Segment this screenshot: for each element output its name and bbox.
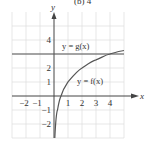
svg-text:−1: −1: [32, 98, 42, 108]
svg-text:3: 3: [94, 98, 99, 108]
svg-text:2: 2: [80, 98, 85, 108]
chart: y (b) 4 x −2−11234 421−1−2 y = g(x) y = …: [0, 0, 149, 148]
svg-text:4: 4: [108, 98, 113, 108]
header-fragment: (b) 4: [74, 0, 92, 6]
axes: [12, 16, 135, 138]
svg-text:1: 1: [66, 98, 71, 108]
svg-text:−2: −2: [41, 119, 51, 129]
series-f-label: y = f(x): [77, 76, 103, 86]
series-f: [55, 51, 124, 139]
x-axis-label: x: [139, 91, 144, 101]
y-axis-arrow-icon: [52, 12, 57, 19]
chart-svg: y (b) 4 x −2−11234 421−1−2 y = g(x) y = …: [0, 0, 149, 148]
svg-text:1: 1: [47, 77, 52, 87]
svg-text:2: 2: [47, 63, 52, 73]
svg-text:4: 4: [47, 35, 52, 45]
series-g-label: y = g(x): [62, 41, 90, 51]
x-tick-labels: −2−11234: [19, 98, 113, 108]
y-axis-label: y: [50, 2, 55, 12]
grid: [12, 12, 124, 138]
x-axis-arrow-icon: [131, 94, 139, 99]
svg-text:−1: −1: [41, 105, 51, 115]
svg-text:−2: −2: [19, 98, 29, 108]
